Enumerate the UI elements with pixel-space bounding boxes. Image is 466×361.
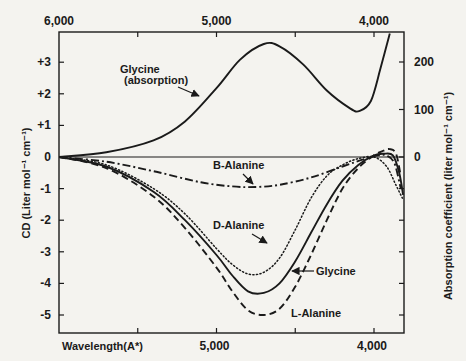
y-axis-title-right: Absorption coefficient (liter mol⁻¹ cm⁻¹… [442, 92, 454, 301]
series-line-glycine-absorption [59, 34, 390, 158]
y-tick-label-right: 200 [414, 55, 434, 69]
x-tick-label-top: 4,000 [359, 14, 389, 28]
y-tick-label-left: -2 [40, 213, 51, 227]
annotation-text: D-Alanine [213, 219, 264, 231]
y-tick-label-left: -1 [40, 182, 51, 196]
annotation-glycine: Glycine [292, 265, 356, 277]
y-tick-label-left: -4 [40, 276, 51, 290]
y-tick-label-left: +2 [37, 87, 51, 101]
annotation-text: (absorption) [124, 74, 188, 86]
annotation-text: L-Alanine [291, 307, 341, 319]
x-tick-label-top: 6,000 [44, 14, 74, 28]
y-tick-label-left: -5 [40, 308, 51, 322]
cd-spectrum-chart: 6,0005,0004,0005,0004,000+3+2+10-1-2-3-4… [0, 0, 466, 361]
y-tick-label-right: 100 [414, 103, 434, 117]
y-tick-label-left: 0 [44, 150, 51, 164]
x-axis-title: Wavelength(A*) [62, 340, 143, 352]
y-tick-label-left: -3 [40, 245, 51, 259]
annotation-arrow [243, 174, 253, 184]
series-line-d-alanine [59, 157, 402, 275]
annotation-b-alanine: B-Alanine [213, 159, 264, 184]
annotation-arrow [252, 234, 267, 243]
annotation-d-alanine: D-Alanine [213, 219, 267, 243]
y-tick-label-right: 0 [414, 150, 421, 164]
annotation-arrow [178, 87, 199, 96]
x-tick-label-top: 5,000 [201, 14, 231, 28]
plot-frame [59, 32, 404, 333]
y-tick-label-left: +1 [37, 118, 51, 132]
annotation-l-alanine: L-Alanine [291, 307, 341, 319]
y-axis-title-left: CD (Liter mol⁻¹ cm⁻¹) [20, 127, 32, 238]
x-tick-label-bottom: 4,000 [357, 339, 387, 353]
annotation-glycine-absorption: Glycine (absorption) [120, 63, 199, 96]
y-tick-label-left: +3 [37, 55, 51, 69]
annotation-text: Glycine [316, 265, 356, 277]
x-tick-label-bottom: 5,000 [199, 339, 229, 353]
annotation-text: B-Alanine [213, 159, 264, 171]
